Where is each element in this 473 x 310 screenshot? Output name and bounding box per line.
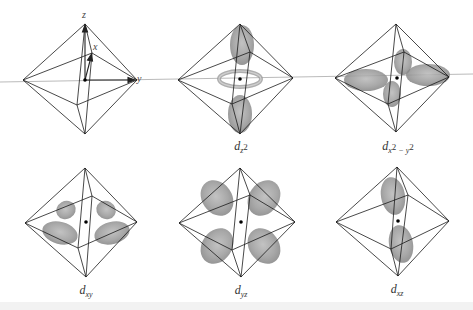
x-axis-label: x <box>93 41 97 52</box>
panel-dxy <box>25 168 137 277</box>
octahedral-d-orbitals-diagram <box>0 0 473 310</box>
label-dyz: dyz <box>235 283 248 299</box>
label-dx2-y2: dx2 − y2 <box>382 139 414 155</box>
panel-axes <box>23 24 137 134</box>
panel-dyz <box>179 168 295 277</box>
y-axis-label: y <box>137 73 141 84</box>
panel-dxz <box>336 167 449 276</box>
page-bottom-edge <box>0 302 473 310</box>
z-axis-label: z <box>82 9 86 20</box>
label-dxz: dxz <box>391 282 404 298</box>
panel-dx2-y2 <box>335 24 450 132</box>
label-dxy: dxy <box>79 283 92 299</box>
label-dz2: dz2 <box>234 139 248 155</box>
